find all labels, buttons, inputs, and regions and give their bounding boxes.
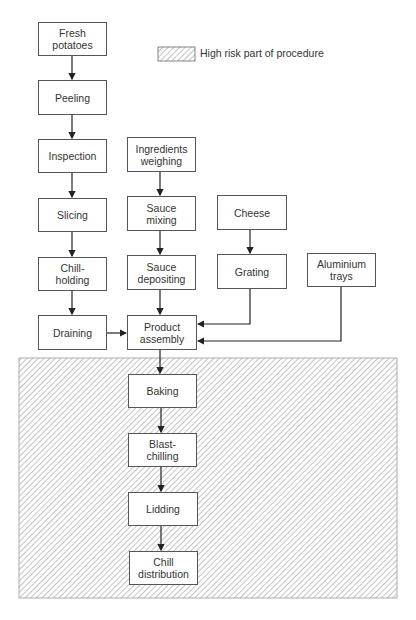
node-peeling: Peeling [38, 80, 107, 115]
node-ingredients-weighing: Ingredients weighing [127, 137, 196, 172]
node-draining: Draining [38, 315, 107, 350]
node-grating: Grating [217, 254, 287, 289]
node-cheese: Cheese [217, 195, 287, 230]
node-lidding: Lidding [128, 492, 198, 526]
node-sauce-depositing: Sauce depositing [127, 255, 196, 290]
legend-hatch-swatch [158, 47, 195, 61]
node-chill-holding: Chill- holding [38, 257, 107, 291]
edge-grating-assembly [198, 289, 250, 324]
node-chill-distribution: Chill distribution [129, 551, 198, 585]
node-sauce-mixing: Sauce mixing [127, 196, 196, 231]
node-blast-chilling: Blast- chilling [128, 433, 197, 467]
node-slicing: Slicing [38, 198, 107, 232]
legend-label: High risk part of procedure [200, 47, 324, 59]
edge-trays-assembly [198, 287, 341, 341]
node-fresh-potatoes: Fresh potatoes [38, 22, 107, 56]
node-inspection: Inspection [38, 139, 107, 173]
node-product-assembly: Product assembly [127, 315, 197, 350]
node-baking: Baking [128, 374, 197, 408]
node-aluminium-trays: Aluminium trays [307, 253, 376, 287]
high-risk-region [19, 358, 397, 598]
